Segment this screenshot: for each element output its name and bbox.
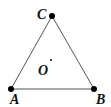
triangle-abc [11,16,94,89]
label-b: B [95,92,105,107]
label-c: C [37,7,47,22]
label-o: O [38,63,48,78]
label-a: A [9,92,19,107]
triangle-diagram: A B C O [0,0,111,107]
point-o [50,59,52,61]
point-c [49,13,55,19]
